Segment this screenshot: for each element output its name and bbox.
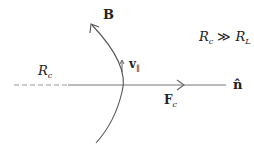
relation-operator: ≫: [217, 29, 231, 44]
relation-Rc-much-greater-RL: Rc ≫ RL: [199, 30, 251, 46]
label-Fc-sub: c: [173, 100, 177, 109]
label-n-hat-text: n̂: [233, 77, 242, 92]
relation-R2-sub: L: [245, 37, 250, 46]
label-Fc-text: F: [164, 93, 173, 107]
label-B: B: [103, 8, 114, 21]
label-v-sub: ∥: [136, 64, 140, 73]
relation-R1: R: [199, 29, 209, 44]
label-v-text: v: [129, 57, 136, 71]
label-Rc-text: R: [38, 63, 48, 78]
label-v-parallel: v∥: [129, 58, 140, 73]
label-n-hat: n̂: [233, 78, 242, 91]
label-Fc: Fc: [164, 94, 177, 109]
label-Rc-left: Rc: [38, 64, 52, 80]
label-Rc-sub: c: [48, 71, 52, 80]
relation-R1-sub: c: [209, 37, 213, 46]
relation-R2: R: [236, 29, 246, 44]
label-B-text: B: [103, 7, 114, 22]
field-line-arc: [92, 25, 123, 143]
